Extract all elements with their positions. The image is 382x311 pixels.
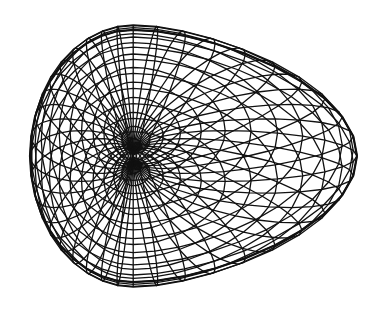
mesh-line xyxy=(59,43,277,224)
mesh-line xyxy=(133,131,357,182)
mesh-line xyxy=(59,88,277,269)
mesh-line xyxy=(31,37,353,286)
mesh-line xyxy=(31,26,353,275)
wireframe-figure: Wireframe surface xyxy=(0,0,382,311)
wireframe-surface xyxy=(0,0,382,311)
